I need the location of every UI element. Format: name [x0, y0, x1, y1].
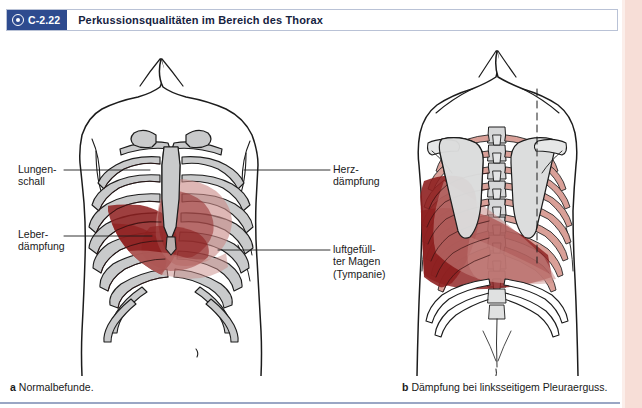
caption-a-marker: a — [10, 381, 16, 393]
caption-b-text: Dämpfung bei linksseitigem Pleuraerguss. — [411, 381, 607, 393]
bottom-rule — [0, 402, 620, 404]
caption-b: bDämpfung bei linksseitigem Pleuraerguss… — [402, 381, 608, 393]
figure-number-badge: C-2.22 — [7, 10, 67, 30]
label-lungenschall: Lungen- schall — [18, 163, 57, 188]
label-luftgefuellter-magen: luftgefüll- ter Magen (Tympanie) — [333, 243, 386, 280]
caption-a-text: Normalbefunde. — [19, 381, 94, 393]
label-herzdaempfung: Herz- dämpfung — [333, 163, 380, 188]
panel-a-anterior — [80, 59, 262, 376]
panel-b-posterior — [417, 51, 578, 376]
figure-header: C-2.22 Perkussionsqualitäten im Bereich … — [6, 9, 618, 31]
figure-container: C-2.22 Perkussionsqualitäten im Bereich … — [0, 0, 642, 408]
figure-artwork — [0, 31, 642, 376]
caption-b-marker: b — [402, 381, 408, 393]
target-icon — [12, 14, 24, 26]
figure-number-label: C-2.22 — [28, 14, 60, 26]
figure-title: Perkussionsqualitäten im Bereich des Tho… — [67, 10, 323, 30]
caption-a: aNormalbefunde. — [10, 381, 94, 393]
label-leberdaempfung: Leber- dämpfung — [18, 228, 65, 253]
